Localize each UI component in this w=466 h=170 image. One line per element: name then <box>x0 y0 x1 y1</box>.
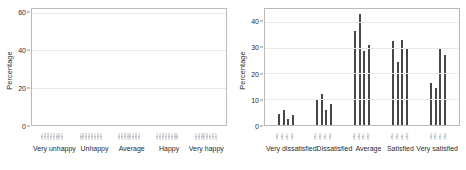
x-axis-group-labels-right: Very dissatisfiedDissatisfiedAverageSati… <box>264 145 460 159</box>
bar <box>400 40 404 125</box>
bar-tick-label: 2008 <box>212 127 214 140</box>
x-axis-group-label: Very satisfied <box>416 145 458 159</box>
bar-tick-label-group: 2005200620072008 <box>304 127 342 141</box>
bar <box>194 117 196 125</box>
bar-group <box>72 9 110 125</box>
bar <box>56 121 58 125</box>
bar <box>205 96 207 125</box>
bar-tick-label: 2004 <box>85 127 87 140</box>
bar-tick-label: 2002 <box>41 127 43 140</box>
bar-tick-label: 2008 <box>406 127 410 140</box>
bar-tick-label: 2005 <box>88 127 90 140</box>
bar-tick-label: 2005 <box>50 127 52 140</box>
x-axis-group-label: Dissatisfied <box>317 145 353 159</box>
bar-tick-label: 2006 <box>168 127 170 140</box>
bar <box>362 51 366 125</box>
bar <box>391 41 395 125</box>
bar-tick-label: 2006 <box>91 127 93 140</box>
bar-tick-label-group: 20022003200420052006200720082009 <box>71 127 109 141</box>
bar <box>100 112 102 125</box>
bar <box>132 95 134 125</box>
bar-tick-label: 2009 <box>138 127 140 140</box>
bar-tick-label: 2002 <box>195 127 197 140</box>
bar-tick-label-group: 20022003200420052006200720082009 <box>33 127 71 141</box>
bar-group <box>305 9 343 125</box>
bar <box>94 112 96 125</box>
bar <box>443 55 447 125</box>
bar-tick-label: 2003 <box>121 127 123 140</box>
y-tick-mark <box>260 99 263 100</box>
bar <box>434 88 438 125</box>
bar <box>315 99 319 125</box>
gridline <box>265 99 459 100</box>
bar <box>329 104 333 125</box>
satisfaction-chart-panel: Percentage 010203040 2005200620072008200… <box>233 0 466 170</box>
bar <box>80 109 82 125</box>
bar-tick-label-group: 20022003200420052006200720082009 <box>187 127 225 141</box>
bar <box>42 123 44 125</box>
y-tick-label: 30 <box>251 44 259 51</box>
bar <box>97 109 99 125</box>
y-tick-label: 0 <box>22 123 26 130</box>
bar-tick-label: 2005 <box>314 127 318 140</box>
bar-tick-labels-right: 2005200620072008200520062007200820052006… <box>264 127 460 141</box>
bar <box>129 104 131 125</box>
bar <box>86 103 88 125</box>
x-axis-group-label: Average <box>352 145 384 159</box>
bar-tick-label: 2006 <box>281 127 285 140</box>
bar-tick-label: 2007 <box>324 127 328 140</box>
y-tick-label: 60 <box>18 8 26 15</box>
bar <box>162 52 164 125</box>
y-tick-mark <box>27 11 30 12</box>
bar-tick-label: 2006 <box>396 127 400 140</box>
bar <box>173 15 175 125</box>
bar <box>286 119 290 125</box>
bar-tick-label: 2009 <box>61 127 63 140</box>
bar <box>214 94 216 125</box>
bar-tick-label-group: 2005200620072008 <box>266 127 304 141</box>
bar <box>282 110 286 125</box>
bar <box>358 14 362 125</box>
bar <box>138 97 140 125</box>
bar <box>124 75 126 125</box>
x-axis-group-label: Satisfied <box>384 145 416 159</box>
bar <box>83 111 85 125</box>
plot-area-left <box>31 8 227 126</box>
bar-tick-label: 2009 <box>176 127 178 140</box>
bar-tick-label: 2008 <box>291 127 295 140</box>
bar-tick-label-group: 2005200620072008 <box>381 127 419 141</box>
bar-tick-label: 2007 <box>286 127 290 140</box>
bar-tick-label: 2006 <box>319 127 323 140</box>
bar <box>135 92 137 125</box>
bar-group <box>267 9 305 125</box>
gridline <box>32 88 226 89</box>
x-axis-group-label: Very dissatisfied <box>266 145 317 159</box>
bar-tick-label-group: 2005200620072008 <box>343 127 381 141</box>
bar-group <box>381 9 419 125</box>
two-panel-bar-chart-figure: Percentage 0204060 200220032004200520062… <box>0 0 466 170</box>
bar-tick-label: 2005 <box>276 127 280 140</box>
bar-tick-label: 2008 <box>444 127 448 140</box>
bar <box>48 123 50 125</box>
bar-tick-label: 2007 <box>362 127 366 140</box>
bar-tick-label: 2008 <box>329 127 333 140</box>
bar-group <box>110 9 148 125</box>
bar-tick-label: 2008 <box>135 127 137 140</box>
bar-groups-right <box>265 9 459 125</box>
bar <box>121 35 123 125</box>
bar-tick-label: 2004 <box>47 127 49 140</box>
bar <box>429 83 433 125</box>
bar-tick-label: 2005 <box>391 127 395 140</box>
bar <box>405 49 409 125</box>
bar-tick-label: 2003 <box>198 127 200 140</box>
bar <box>170 15 172 125</box>
bar <box>176 15 178 125</box>
bar <box>211 93 213 125</box>
bar-tick-label: 2007 <box>209 127 211 140</box>
bar <box>438 49 442 125</box>
bar <box>203 88 205 125</box>
y-tick-label: 40 <box>18 46 26 53</box>
y-tick-label: 40 <box>251 18 259 25</box>
bar-group <box>148 9 186 125</box>
bar-tick-label-group: 2005200620072008 <box>420 127 458 141</box>
